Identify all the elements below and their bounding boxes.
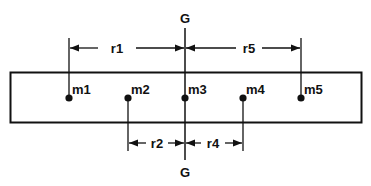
dimension-r4: r4: [186, 136, 242, 151]
dimension-label-r4: r4: [207, 136, 220, 151]
mass-label-m3: m3: [188, 82, 207, 97]
mass-label-m2: m2: [131, 82, 150, 97]
mass-label-m5: m5: [304, 82, 323, 97]
beam-mass-diagram: G G r1 r5 r2 r4 m1 m2 m3: [0, 0, 371, 186]
g-axis-label-bottom: G: [180, 165, 190, 180]
mass-m2: m2: [124, 82, 149, 102]
dimension-r1: r1: [70, 41, 184, 56]
mass-label-m4: m4: [246, 82, 266, 97]
mass-label-m1: m1: [72, 82, 91, 97]
dimension-r2: r2: [129, 136, 184, 151]
dimension-label-r2: r2: [151, 136, 163, 151]
dimension-r5: r5: [186, 41, 300, 56]
dimension-label-r1: r1: [111, 41, 123, 56]
mass-m4: m4: [239, 82, 265, 102]
dimension-label-r5: r5: [243, 41, 255, 56]
g-axis-label-top: G: [180, 11, 190, 26]
